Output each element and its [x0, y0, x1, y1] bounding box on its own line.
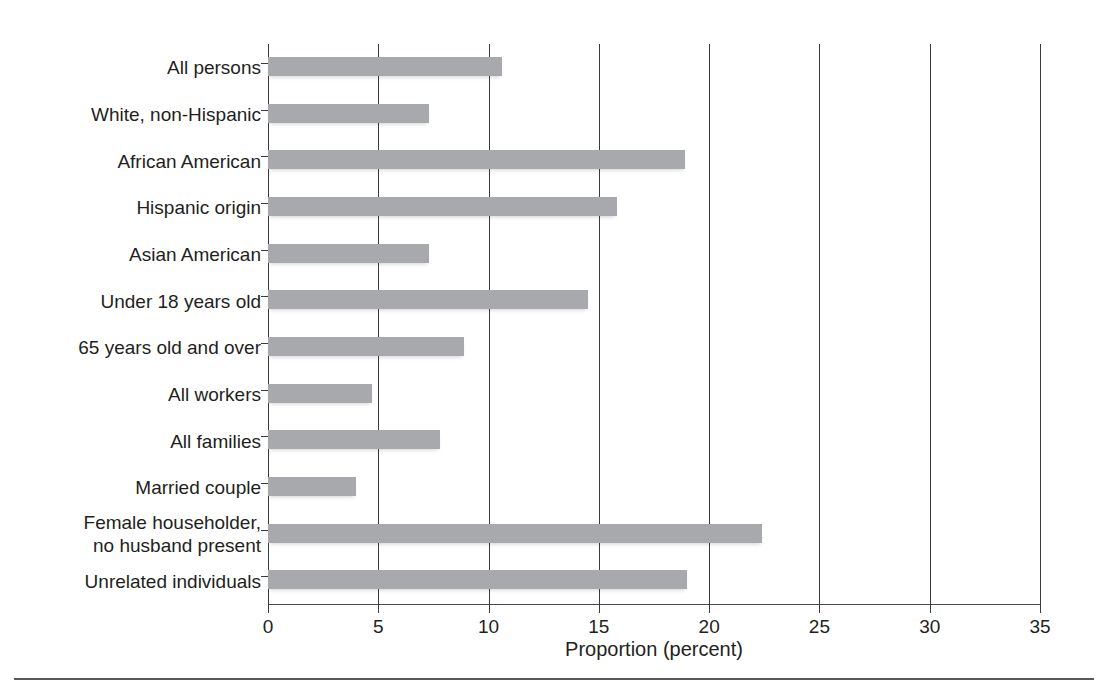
category-label-line: Married couple	[0, 476, 261, 499]
x-tick-label-30: 30	[919, 616, 940, 638]
x-tick-15	[599, 604, 600, 613]
category-tick	[261, 390, 268, 391]
category-axis-labels: All personsWhite, non-HispanicAfrican Am…	[0, 44, 261, 604]
category-label-line: Hispanic origin	[0, 196, 261, 219]
category-label: African American	[0, 149, 261, 172]
bar	[268, 244, 429, 263]
poverty-rate-bar-chart: All personsWhite, non-HispanicAfrican Am…	[0, 0, 1108, 692]
x-tick-25	[819, 604, 820, 613]
category-label-line: Under 18 years old	[0, 289, 261, 312]
x-tick-label-25: 25	[809, 616, 830, 638]
x-tick-10	[489, 604, 490, 613]
x-tick-label-5: 5	[373, 616, 384, 638]
bar	[268, 104, 429, 123]
category-label-line: All persons	[0, 56, 261, 79]
plot-area: 05101520253035	[268, 44, 1040, 604]
bar	[268, 430, 440, 449]
category-tick	[261, 483, 268, 484]
category-tick	[261, 203, 268, 204]
x-axis-line	[268, 604, 1040, 605]
bar-row	[268, 324, 1040, 371]
category-tick	[261, 436, 268, 437]
category-label: Asian American	[0, 243, 261, 266]
bar	[268, 384, 372, 403]
bar	[268, 570, 687, 589]
category-label: All workers	[0, 383, 261, 406]
category-label-line: Unrelated individuals	[0, 569, 261, 592]
bar-row	[268, 184, 1040, 231]
category-tick	[261, 530, 268, 531]
category-label-line: Female householder,	[0, 511, 261, 534]
x-tick-0	[268, 604, 269, 613]
bar-row	[268, 137, 1040, 184]
bar-row	[268, 231, 1040, 278]
category-tick	[261, 110, 268, 111]
bar-row	[268, 417, 1040, 464]
bottom-divider	[14, 678, 1094, 680]
x-axis-title: Proportion (percent)	[268, 638, 1040, 661]
x-tick-20	[709, 604, 710, 613]
category-label: All families	[0, 429, 261, 452]
bar-row	[268, 464, 1040, 511]
category-label-line: All families	[0, 429, 261, 452]
bar	[268, 290, 588, 309]
x-tick-label-20: 20	[699, 616, 720, 638]
bar-row	[268, 511, 1040, 558]
bar	[268, 524, 762, 543]
category-label: Unrelated individuals	[0, 569, 261, 592]
bar-row	[268, 44, 1040, 91]
category-label: Under 18 years old	[0, 289, 261, 312]
category-label-line: African American	[0, 149, 261, 172]
category-label: Hispanic origin	[0, 196, 261, 219]
category-label-line: All workers	[0, 383, 261, 406]
category-tick	[261, 250, 268, 251]
category-tick	[261, 63, 268, 64]
bar	[268, 150, 685, 169]
category-label: White, non-Hispanic	[0, 103, 261, 126]
category-tick	[261, 156, 268, 157]
bar-row	[268, 277, 1040, 324]
category-label-line: White, non-Hispanic	[0, 103, 261, 126]
bar	[268, 337, 464, 356]
category-label: All persons	[0, 56, 261, 79]
gridline-35	[1040, 44, 1041, 604]
bar	[268, 477, 356, 496]
bar-row	[268, 371, 1040, 418]
x-tick-label-10: 10	[478, 616, 499, 638]
bar	[268, 57, 502, 76]
category-tick	[261, 343, 268, 344]
category-label-line: Asian American	[0, 243, 261, 266]
bar-row	[268, 91, 1040, 138]
x-tick-label-35: 35	[1029, 616, 1050, 638]
x-tick-35	[1040, 604, 1041, 613]
bar-row	[268, 557, 1040, 604]
category-tick	[261, 576, 268, 577]
category-label: Married couple	[0, 476, 261, 499]
x-tick-5	[378, 604, 379, 613]
category-label-line: 65 years old and over	[0, 336, 261, 359]
category-label: 65 years old and over	[0, 336, 261, 359]
bar	[268, 197, 617, 216]
category-label: Female householder,no husband present	[0, 511, 261, 557]
x-tick-30	[930, 604, 931, 613]
category-tick	[261, 296, 268, 297]
category-label-line: no husband present	[0, 534, 261, 557]
x-tick-label-0: 0	[263, 616, 274, 638]
x-tick-label-15: 15	[588, 616, 609, 638]
